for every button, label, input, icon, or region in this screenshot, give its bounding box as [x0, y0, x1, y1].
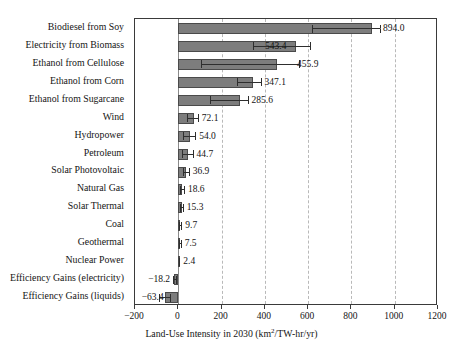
bar-row: 54.0 [135, 127, 436, 145]
x-axis-tick-label: 800 [343, 310, 357, 323]
error-bar-cap [248, 96, 249, 104]
label-leader-line [380, 28, 381, 29]
bar-row: 15.3 [135, 198, 436, 216]
error-bar [201, 64, 299, 65]
x-axis-tick-label: 1200 [428, 310, 447, 323]
x-axis-tick-label: 1000 [384, 310, 403, 323]
error-bar-cap [182, 150, 183, 158]
error-bar-cap [198, 114, 199, 122]
x-axis-tick-label: 0 [175, 310, 180, 323]
bar-value-label: 72.1 [202, 111, 219, 125]
error-bar-cap [179, 258, 180, 266]
bar-row: 18.6 [135, 180, 436, 198]
y-axis-tick-label: Petroleum [0, 146, 124, 160]
error-bar [182, 154, 192, 155]
x-axis-tick-label: 200 [213, 310, 227, 323]
bar-value-label: −18.2 [148, 272, 170, 286]
error-bar [237, 82, 261, 83]
x-axis-title-after: /TW-hr/yr) [275, 328, 318, 339]
error-bar-cap [181, 222, 182, 230]
bar-row: 894.0 [135, 19, 436, 37]
y-axis-tick-label: Solar Photovoltaic [0, 163, 124, 177]
y-axis-tick-label: Biodiesel from Soy [0, 20, 124, 34]
x-axis-tick [437, 305, 438, 309]
x-axis-tick [307, 305, 308, 309]
y-axis-tick-label: Efficiency Gains (liquids) [0, 289, 124, 303]
bar-value-label: 347.1 [265, 75, 286, 89]
bar-value-label: 894.0 [383, 21, 404, 35]
x-axis-tick-label: −200 [124, 310, 144, 323]
bar-value-label: 36.9 [193, 164, 210, 178]
error-bar-cap [184, 186, 185, 194]
error-bar-cap [180, 186, 181, 194]
bar-row: 44.7 [135, 145, 436, 163]
bar-value-label: 543.4 [265, 39, 286, 53]
bar-row: 36.9 [135, 163, 436, 181]
bar-value-label: 18.6 [188, 182, 205, 196]
y-axis-tick-label: Electricity from Biomass [0, 38, 124, 52]
x-axis-tick [134, 305, 135, 309]
bar-row: 2.4 [135, 252, 436, 270]
error-bar-cap [237, 78, 238, 86]
error-bar-cap [312, 25, 313, 33]
error-bar-cap [181, 240, 182, 248]
y-axis-tick-label: Efficiency Gains (electricity) [0, 271, 124, 285]
error-bar-cap [187, 114, 188, 122]
bar-value-label: 9.7 [185, 218, 197, 232]
y-axis-tick-label: Ethanol from Sugarcane [0, 92, 124, 106]
y-axis-tick-label: Solar Thermal [0, 199, 124, 213]
y-axis-tick-label: Coal [0, 217, 124, 231]
bar-row: 285.6 [135, 91, 436, 109]
error-bar-cap [183, 204, 184, 212]
bar-value-label: 285.6 [252, 93, 273, 107]
error-bar-cap [179, 222, 180, 230]
y-axis-tick-label: Ethanol from Cellulose [0, 56, 124, 70]
error-bar-cap [180, 204, 181, 212]
error-bar-cap [170, 294, 171, 302]
bar-row: 9.7 [135, 216, 436, 234]
y-axis-category-labels: Biodiesel from SoyElectricity from Bioma… [0, 18, 129, 305]
error-bar [210, 100, 248, 101]
error-bar-cap [193, 150, 194, 158]
x-axis-title-before: Land-Use Intensity in 2030 (km [145, 328, 271, 339]
bar-value-label: 44.7 [197, 147, 214, 161]
error-bar-cap [261, 78, 262, 86]
x-axis-tick [350, 305, 351, 309]
error-bar-cap [201, 60, 202, 68]
y-axis-tick-label: Nuclear Power [0, 253, 124, 267]
x-axis-tick-label: 600 [300, 310, 314, 323]
error-bar-cap [183, 132, 184, 140]
bar-row: 7.5 [135, 234, 436, 252]
x-axis-tick [177, 305, 178, 309]
error-bar-cap [210, 96, 211, 104]
bar-row: 543.4 [135, 37, 436, 55]
error-bar-cap [195, 132, 196, 140]
bar-row: −18.2 [135, 270, 436, 288]
x-axis-tick [221, 305, 222, 309]
bar-row: 72.1 [135, 109, 436, 127]
error-bar [312, 28, 379, 29]
x-axis: −200020040060080010001200 [134, 305, 437, 327]
error-bar [183, 136, 195, 137]
bar-value-label: 54.0 [199, 129, 216, 143]
bar-value-label: 455.9 [297, 57, 318, 71]
bar-row: −63.4 [135, 288, 436, 306]
x-axis-title: Land-Use Intensity in 2030 (km2/TW-hr/yr… [0, 327, 463, 339]
error-bar [187, 118, 198, 119]
error-bar-cap [189, 168, 190, 176]
error-bar-cap [310, 42, 311, 50]
y-axis-tick-label: Geothermal [0, 235, 124, 249]
error-bar-cap [176, 276, 177, 284]
y-axis-tick-label: Hydropower [0, 128, 124, 142]
y-axis-tick-label: Natural Gas [0, 181, 124, 195]
x-axis-tick [394, 305, 395, 309]
bar-value-label: 15.3 [187, 200, 204, 214]
x-axis-tick [264, 305, 265, 309]
y-axis-tick-label: Wind [0, 110, 124, 124]
bar-value-label: 2.4 [183, 254, 195, 268]
bar-row: 347.1 [135, 73, 436, 91]
plot-area: 894.0543.4455.9347.1285.672.154.044.736.… [134, 18, 437, 305]
error-bar-cap [173, 276, 174, 284]
bar-value-label: −63.4 [142, 290, 164, 304]
bar-value-label: 7.5 [185, 236, 197, 250]
